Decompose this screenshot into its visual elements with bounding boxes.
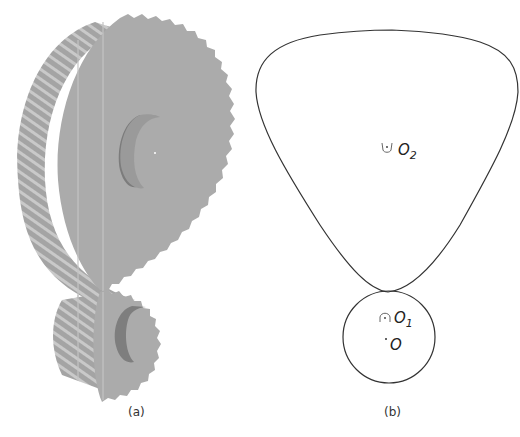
o2-marker-icon — [382, 143, 392, 152]
o2-label: O2 — [398, 141, 417, 162]
o1-label: O1 — [394, 309, 413, 330]
gear-pair-illustration — [0, 0, 250, 437]
o-label: O — [390, 336, 402, 354]
small-pitch-circle — [343, 291, 435, 383]
caption-a: (a) — [128, 405, 145, 419]
large-gear — [17, 14, 235, 340]
small-gear — [53, 289, 161, 402]
pitch-curve-panel: O2 O1 O (b) — [240, 0, 520, 437]
large-pitch-curve — [256, 30, 518, 292]
o-point — [385, 338, 387, 340]
pitch-curves-diagram: O2 O1 O — [240, 0, 520, 437]
center-dot — [154, 152, 156, 154]
o1-marker-icon — [380, 313, 390, 322]
caption-b: (b) — [384, 405, 401, 419]
gear-render-panel: (a) — [0, 0, 250, 437]
large-gear-face — [58, 14, 235, 291]
